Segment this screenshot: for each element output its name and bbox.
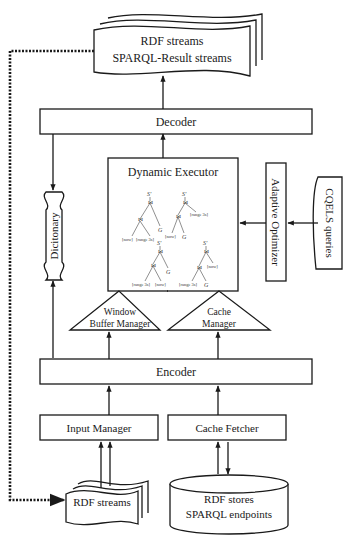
cache-manager-label-2: Manager [202, 319, 237, 329]
svg-text:⋈: ⋈ [151, 263, 156, 268]
svg-text:[range 3s]: [range 3s] [190, 212, 209, 217]
input-streams-label: RDF streams [73, 496, 131, 508]
svg-text:S': S' [203, 240, 208, 246]
svg-text:⋈: ⋈ [183, 200, 188, 205]
svg-text:G: G [182, 234, 187, 240]
svg-text:S': S' [147, 191, 152, 197]
output-streams-label-1: RDF streams [141, 34, 204, 48]
output-streams-label-2: SPARQL-Result streams [112, 51, 232, 65]
svg-text:[now]: [now] [207, 264, 218, 269]
rdf-stores-label-2: SPARQL endpoints [186, 508, 272, 520]
input-manager-label: Input Manager [66, 422, 131, 434]
dictionary-label: Dicitonary [48, 212, 60, 260]
window-buffer-manager-label-2: Buffer Manager [90, 319, 152, 329]
svg-text:⋈: ⋈ [148, 200, 153, 205]
dynamic-executor-label: Dynamic Executor [128, 165, 218, 179]
svg-text:⋈: ⋈ [158, 249, 163, 254]
svg-text:⋈: ⋈ [204, 249, 209, 254]
svg-text:[range 3s]: [range 3s] [136, 237, 155, 242]
svg-text:[now]: [now] [165, 234, 176, 239]
svg-text:[range 3s]: [range 3s] [132, 282, 151, 287]
svg-text:⋈: ⋈ [176, 214, 181, 219]
svg-text:⋈: ⋈ [197, 265, 202, 270]
adaptive-optimizer-label: Adaptive Optimizer [270, 178, 282, 266]
svg-text:[now]: [now] [122, 237, 133, 242]
svg-text:[range 3s]: [range 3s] [179, 282, 198, 287]
svg-text:G: G [166, 269, 171, 275]
encoder-label: Encoder [156, 365, 196, 379]
svg-text:G: G [204, 282, 209, 288]
svg-text:⋈: ⋈ [138, 217, 143, 222]
svg-text:S': S' [157, 240, 162, 246]
svg-text:S': S' [182, 191, 187, 197]
window-buffer-manager-label-1: Window [104, 307, 136, 317]
decoder-label: Decoder [156, 115, 197, 129]
cqels-queries-label: CQELS queries [324, 188, 336, 257]
svg-text:[now]: [now] [155, 282, 166, 287]
rdf-stores-label-1: RDF stores [204, 493, 254, 505]
svg-text:G: G [158, 227, 163, 233]
cache-fetcher-label: Cache Fetcher [195, 422, 259, 434]
architecture-diagram: S' ⋈ ⋈ [now] [range 3s] G S' ⋈ ⋈ [now] G… [0, 0, 357, 546]
cache-manager-label-1: Cache [207, 307, 231, 317]
